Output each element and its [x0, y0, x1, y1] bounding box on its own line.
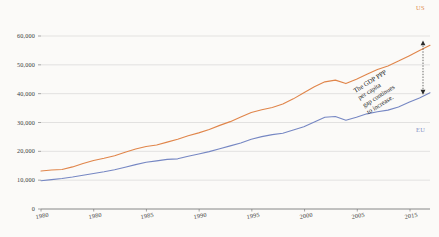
gap-arrow-head-top-icon	[421, 40, 426, 45]
y-axis-tick-label: 10,000	[1, 176, 35, 183]
chart-container: 010,00020,00030,00040,00050,00060,000 19…	[0, 0, 439, 237]
gap-arrow-annotation	[421, 40, 426, 94]
y-axis-tick-label: 60,000	[1, 32, 35, 39]
y-axis-tick-label: 20,000	[1, 147, 35, 154]
gridlines-group	[38, 36, 430, 209]
series-label-eu: EU	[416, 126, 425, 133]
gap-arrow-head-bottom-icon	[421, 90, 426, 95]
y-axis-tick-label: 0	[1, 205, 35, 212]
series-label-us: US	[416, 4, 425, 11]
y-axis-tick-label: 30,000	[1, 119, 35, 126]
line-chart-svg	[0, 0, 439, 237]
y-axis-tick-label: 40,000	[1, 90, 35, 97]
y-axis-tick-label: 50,000	[1, 61, 35, 68]
